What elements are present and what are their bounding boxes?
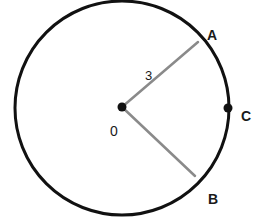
radius-line-ob xyxy=(122,107,195,176)
diagram-canvas xyxy=(0,0,259,220)
point-label-c: C xyxy=(241,109,251,123)
point-c-dot xyxy=(224,104,233,113)
point-label-a: A xyxy=(207,28,217,42)
point-label-b: B xyxy=(208,192,218,206)
center-label-o: 0 xyxy=(110,124,118,138)
radius-length-label: 3 xyxy=(145,69,152,82)
radius-line-oa xyxy=(122,42,198,107)
center-point-dot xyxy=(118,103,127,112)
circle-diagram: A B C 0 3 xyxy=(0,0,259,220)
